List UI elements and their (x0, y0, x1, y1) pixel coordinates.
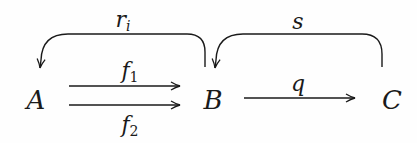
node-C: C (382, 87, 402, 113)
commutative-diagram: A B C f1 f2 q ri s (0, 0, 417, 143)
label-s: s (292, 11, 303, 33)
label-f1: f1 (121, 60, 138, 84)
arrow-s (215, 34, 382, 68)
label-r-i: ri (115, 9, 130, 33)
label-f2: f2 (121, 114, 138, 138)
node-A: A (27, 87, 46, 113)
diagram-arrows (0, 0, 417, 143)
label-q: q (291, 73, 305, 95)
node-B: B (203, 87, 222, 113)
